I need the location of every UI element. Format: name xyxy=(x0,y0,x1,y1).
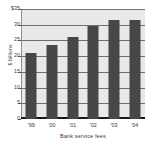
plot-area xyxy=(21,9,145,119)
y-axis-tick-mark xyxy=(18,25,21,26)
bar-series xyxy=(21,9,145,119)
x-axis-tick-label: '99 xyxy=(28,122,35,128)
bar xyxy=(67,37,78,119)
x-axis-tick-label: '03 xyxy=(110,122,117,128)
y-axis-tick-mark xyxy=(18,72,21,73)
bar xyxy=(129,20,140,119)
y-axis-tick-mark xyxy=(18,9,21,10)
x-axis-tick-labels: '99'00'01'02'03'04 xyxy=(21,122,145,131)
bar-slot xyxy=(104,9,125,119)
x-axis-tick-label: '00 xyxy=(48,122,55,128)
bar xyxy=(108,20,119,119)
bar-chart: $ billions 051015202530$35 '99'00'01'02'… xyxy=(0,0,152,148)
y-axis-tick-mark xyxy=(18,103,21,104)
bar-slot xyxy=(42,9,63,119)
x-axis-tick-label: '02 xyxy=(90,122,97,128)
y-axis-tick-mark xyxy=(18,88,21,89)
y-axis-tick-mark xyxy=(18,119,21,120)
bar-slot xyxy=(124,9,145,119)
y-axis-tick-labels: 051015202530$35 xyxy=(0,6,21,119)
bar xyxy=(88,26,99,119)
y-axis-tick-mark xyxy=(18,56,21,57)
x-axis-tick-label: '04 xyxy=(131,122,138,128)
bar xyxy=(46,45,57,119)
bar-slot xyxy=(83,9,104,119)
bar xyxy=(26,53,37,119)
bar-slot xyxy=(62,9,83,119)
x-axis-tick-label: '01 xyxy=(69,122,76,128)
bar-slot xyxy=(21,9,42,119)
x-axis-title: Bank service fees xyxy=(21,133,145,139)
y-axis-tick-mark xyxy=(18,40,21,41)
